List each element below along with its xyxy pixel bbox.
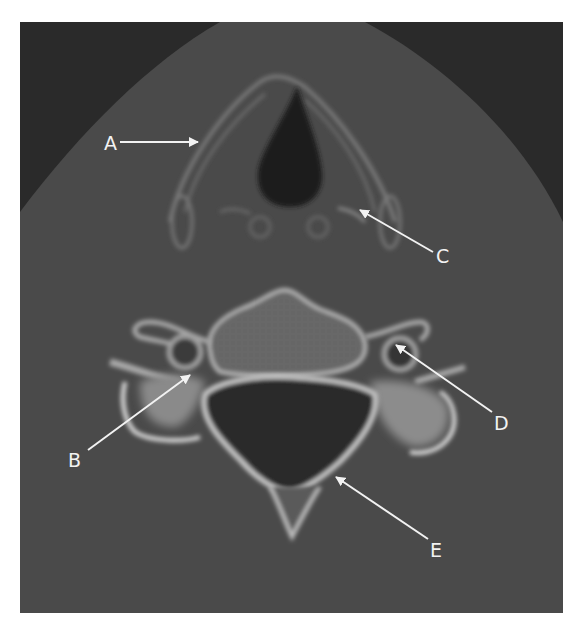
label-a: A [104,134,117,153]
label-e: E [430,541,442,560]
label-c: C [436,247,449,266]
ct-image-frame [20,22,563,613]
label-d: D [494,414,509,433]
label-b: B [68,451,81,470]
ct-scan-illustration [20,22,563,613]
